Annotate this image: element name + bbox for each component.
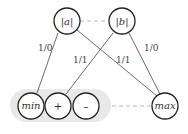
node-minus-label: – (84, 101, 89, 112)
edge-label-abs-b-plus: 1/1 (73, 55, 87, 65)
edge-label-abs-b-max: 1/0 (144, 43, 159, 53)
node-abs-b: |b| (109, 8, 135, 34)
node-plus-label: + (54, 101, 62, 112)
node-abs-a: |a| (54, 8, 80, 34)
node-min-label: min (21, 100, 40, 111)
node-plus: + (45, 93, 71, 119)
node-minus: – (73, 93, 99, 119)
node-min: min (18, 93, 44, 119)
edge-abs-a-min (37, 33, 58, 93)
node-abs-a-label: |a| (61, 16, 74, 28)
diagram-canvas: 1/0 1/1 1/1 1/0 |a| |b| min + – max (0, 0, 188, 134)
node-max-label: max (154, 100, 175, 111)
edge-label-abs-a-min: 1/0 (38, 43, 53, 53)
node-abs-b-label: |b| (115, 16, 128, 28)
edge-label-abs-a-max: 1/1 (116, 55, 130, 65)
node-max: max (152, 93, 178, 119)
